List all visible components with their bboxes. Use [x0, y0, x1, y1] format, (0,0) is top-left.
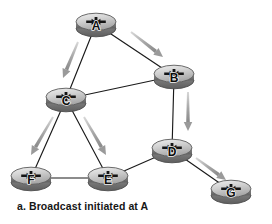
router-label-g: G	[226, 186, 235, 200]
figure-caption: a. Broadcast initiated at A	[17, 200, 148, 212]
router-label-a: A	[92, 19, 101, 33]
router-node-c[interactable]: C	[46, 88, 86, 112]
router-node-g[interactable]: G	[211, 180, 251, 204]
network-topology-svg: ABCDEFG	[0, 0, 272, 224]
router-label-f: F	[27, 173, 34, 187]
router-label-b: B	[170, 71, 179, 85]
router-node-a[interactable]: A	[76, 13, 116, 37]
router-label-c: C	[62, 94, 71, 108]
router-node-b[interactable]: B	[154, 65, 194, 89]
network-broadcast-diagram: ABCDEFG	[0, 0, 272, 224]
router-node-f[interactable]: F	[11, 167, 51, 191]
router-label-e: E	[104, 173, 112, 187]
router-node-d[interactable]: D	[152, 139, 192, 163]
router-label-d: D	[168, 145, 177, 159]
router-node-e[interactable]: E	[88, 167, 128, 191]
